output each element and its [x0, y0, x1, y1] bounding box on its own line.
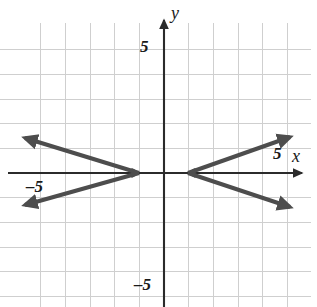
y-axis-name-label: y	[171, 4, 179, 22]
x-axis-tick-label-5: 5	[273, 145, 282, 162]
y-axis-tick-label-5: 5	[140, 38, 149, 55]
left-branch-upper-ray	[25, 138, 139, 173]
grid-lines	[0, 23, 311, 307]
coordinate-plane-svg	[0, 0, 317, 307]
y-axis-tick-label-negative-5: –5	[134, 276, 151, 293]
x-axis-tick-label-negative-5: –5	[26, 178, 43, 195]
x-axis-name-label: x	[292, 147, 300, 165]
graph-figure: 5 5 –5 –5 y x	[0, 0, 317, 307]
axis-lines	[8, 20, 302, 307]
